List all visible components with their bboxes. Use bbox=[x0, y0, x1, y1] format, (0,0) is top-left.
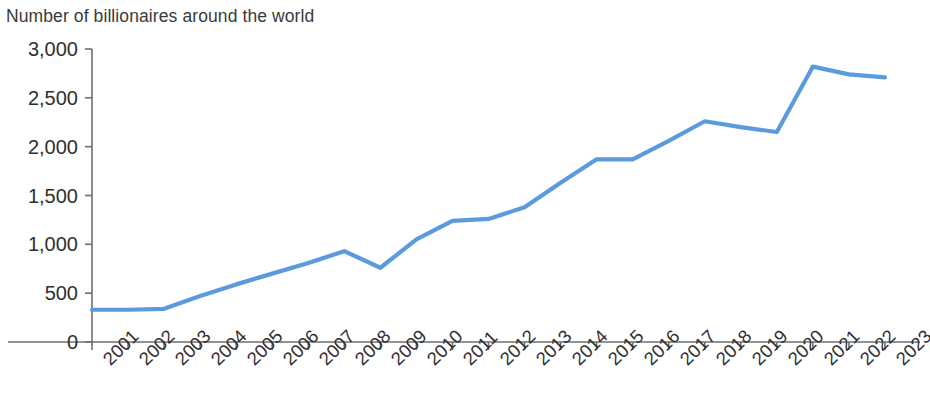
x-axis-tick-label: 2002 bbox=[136, 356, 149, 369]
x-axis-tick-label: 2010 bbox=[424, 356, 437, 369]
x-axis-tick-label: 2012 bbox=[497, 356, 510, 369]
x-axis-tick-label: 2006 bbox=[280, 356, 293, 369]
x-axis-tick-label: 2021 bbox=[821, 356, 834, 369]
x-axis-tick-label: 2014 bbox=[569, 356, 582, 369]
x-axis-tick-label: 2018 bbox=[713, 356, 726, 369]
x-axis-tick-label: 2017 bbox=[677, 356, 690, 369]
x-axis-tick-label: 2020 bbox=[785, 356, 798, 369]
x-axis-tick-label: 2005 bbox=[244, 356, 257, 369]
x-axis-tick-labels: 2001200220032004200520062007200820092010… bbox=[0, 0, 930, 412]
x-axis-tick-label: 2001 bbox=[100, 356, 113, 369]
x-axis-tick-label: 2009 bbox=[388, 356, 401, 369]
billionaires-line-chart: Number of billionaires around the world … bbox=[0, 0, 930, 412]
x-axis-tick-label: 2013 bbox=[533, 356, 546, 369]
x-axis-tick-label: 2003 bbox=[172, 356, 185, 369]
x-axis-tick-label: 2019 bbox=[749, 356, 762, 369]
x-axis-tick-label: 2008 bbox=[352, 356, 365, 369]
x-axis-tick-label: 2015 bbox=[605, 356, 618, 369]
x-axis-tick-label: 2011 bbox=[460, 356, 473, 369]
x-axis-tick-label: 2007 bbox=[316, 356, 329, 369]
x-axis-tick-label: 2016 bbox=[641, 356, 654, 369]
x-axis-tick-label: 2023 bbox=[893, 356, 906, 369]
x-axis-tick-label: 2004 bbox=[208, 356, 221, 369]
x-axis-tick-label: 2022 bbox=[857, 356, 870, 369]
